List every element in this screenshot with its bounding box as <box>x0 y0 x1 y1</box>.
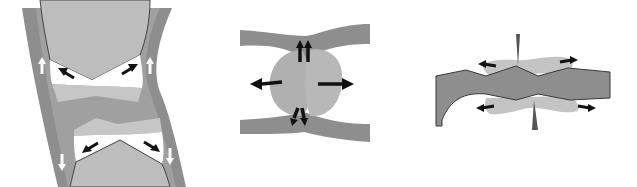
joint-diagram <box>0 0 220 187</box>
panel-disc <box>220 0 420 187</box>
panel-joint <box>0 0 220 187</box>
panel-band <box>420 0 637 187</box>
band <box>436 66 610 126</box>
band-diagram <box>420 0 637 187</box>
disc-diagram <box>220 0 420 187</box>
top-layer <box>240 24 370 60</box>
